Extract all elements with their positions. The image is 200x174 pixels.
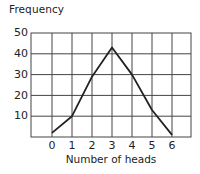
x-tick-0: 0 [46, 139, 58, 152]
x-tick-5: 5 [146, 139, 158, 152]
x-tick-2: 2 [86, 139, 98, 152]
x-tick-1: 1 [66, 139, 78, 152]
x-tick-6: 6 [166, 139, 178, 152]
x-tick-4: 4 [126, 139, 138, 152]
x-axis-title: Number of heads [0, 153, 200, 165]
x-tick-3: 3 [106, 139, 118, 152]
